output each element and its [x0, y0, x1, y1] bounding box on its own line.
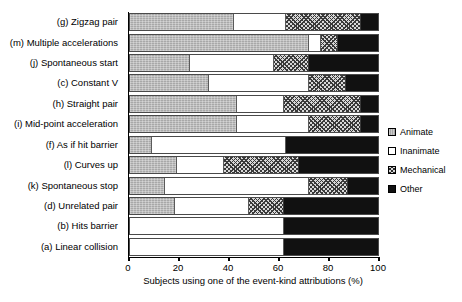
bar-row [129, 156, 379, 174]
bar-segment-other [309, 55, 378, 71]
x-tick [328, 257, 330, 261]
bar-segment-inanimate [130, 218, 284, 234]
bar-segment-mechanical [309, 178, 349, 194]
x-tick [278, 257, 280, 261]
category-label: (m) Multiple accelerations [10, 34, 118, 52]
legend-swatch-mechanical [388, 166, 396, 174]
bar-segment-other [361, 116, 378, 132]
stacked-bar [129, 156, 379, 174]
bar-segment-inanimate [209, 75, 308, 91]
stacked-bar [129, 197, 379, 215]
stacked-bar [129, 136, 379, 154]
legend-label: Animate [400, 127, 433, 137]
bar-segment-mechanical [309, 75, 346, 91]
bar-segment-mechanical [224, 157, 298, 173]
bar-segment-inanimate [165, 178, 309, 194]
category-label: (j) Spontaneous start [30, 54, 118, 72]
legend-item-animate: Animate [388, 122, 462, 141]
bar-row [129, 136, 379, 154]
bar-segment-inanimate [175, 198, 249, 214]
bar-rows [129, 12, 379, 257]
stacked-bar [129, 34, 379, 52]
x-tick [178, 257, 180, 261]
bar-segment-mechanical [309, 116, 361, 132]
bar-row [129, 177, 379, 195]
bar-segment-animate [130, 14, 234, 30]
bar-segment-other [346, 75, 378, 91]
bar-segment-animate [130, 75, 209, 91]
bar-row [129, 95, 379, 113]
bar-row [129, 197, 379, 215]
bar-segment-mechanical [321, 35, 338, 51]
category-label: (i) Mid-point acceleration [14, 115, 118, 133]
bar-segment-other [299, 157, 378, 173]
bar-row [129, 217, 379, 235]
bar-segment-animate [130, 178, 165, 194]
legend-label: Mechanical [400, 165, 446, 175]
category-label: (g) Zigzag pair [57, 13, 118, 31]
bar-segment-inanimate [237, 96, 284, 112]
legend-item-other: Other [388, 179, 462, 198]
x-tick [128, 257, 130, 261]
legend-label: Inanimate [400, 146, 440, 156]
bar-row [129, 115, 379, 133]
legend-swatch-other [388, 185, 396, 193]
bar-segment-inanimate [237, 116, 309, 132]
stacked-bar [129, 95, 379, 113]
bar-row [129, 13, 379, 31]
x-tick-label: 40 [223, 262, 234, 273]
legend-swatch-animate [388, 128, 396, 136]
legend-item-inanimate: Inanimate [388, 141, 462, 160]
bar-segment-other [284, 198, 378, 214]
bar-row [129, 74, 379, 92]
bar-segment-animate [130, 157, 177, 173]
bar-row [129, 238, 379, 256]
bar-segment-other [361, 96, 378, 112]
x-tick-label: 80 [323, 262, 334, 273]
bar-segment-other [348, 178, 378, 194]
x-tick-label: 20 [173, 262, 184, 273]
stacked-bar [129, 177, 379, 195]
category-label: (d) Unrelated pair [44, 197, 118, 215]
bar-segment-inanimate [130, 239, 284, 255]
bar-segment-mechanical [274, 55, 309, 71]
x-tick [228, 257, 230, 261]
category-label: (h) Straight pair [53, 95, 118, 113]
stacked-bar-chart: (g) Zigzag pair(m) Multiple acceleration… [0, 0, 462, 302]
stacked-bar [129, 217, 379, 235]
category-label: (b) Hits barrier [57, 217, 118, 235]
bar-segment-animate [130, 96, 237, 112]
x-axis-ticks: 020406080100 [128, 257, 378, 263]
bar-segment-animate [130, 198, 175, 214]
category-label: (k) Spontaneous stop [28, 177, 118, 195]
category-label: (c) Constant V [57, 74, 118, 92]
bar-segment-animate [130, 55, 190, 71]
bar-segment-other [338, 35, 378, 51]
stacked-bar [129, 115, 379, 133]
bar-segment-inanimate [309, 35, 321, 51]
plot-area [128, 12, 379, 258]
category-label: (a) Linear collision [41, 238, 118, 256]
category-label: (l) Curves up [64, 156, 118, 174]
bar-segment-inanimate [152, 137, 286, 153]
legend-item-mechanical: Mechanical [388, 160, 462, 179]
bar-row [129, 34, 379, 52]
chart-legend: AnimateInanimateMechanicalOther [388, 122, 462, 198]
category-label: (f) As if hit barrier [46, 136, 118, 154]
bar-segment-inanimate [177, 157, 224, 173]
bar-segment-inanimate [234, 14, 286, 30]
stacked-bar [129, 13, 379, 31]
x-tick-label: 100 [370, 262, 386, 273]
stacked-bar [129, 74, 379, 92]
bar-segment-other [284, 239, 378, 255]
bar-segment-other [284, 218, 378, 234]
bar-segment-animate [130, 35, 309, 51]
bar-segment-mechanical [249, 198, 284, 214]
bar-segment-animate [130, 116, 237, 132]
bar-segment-inanimate [190, 55, 274, 71]
stacked-bar [129, 238, 379, 256]
bar-segment-mechanical [284, 96, 361, 112]
bar-segment-animate [130, 137, 152, 153]
bar-segment-other [361, 14, 378, 30]
bar-segment-other [286, 137, 378, 153]
